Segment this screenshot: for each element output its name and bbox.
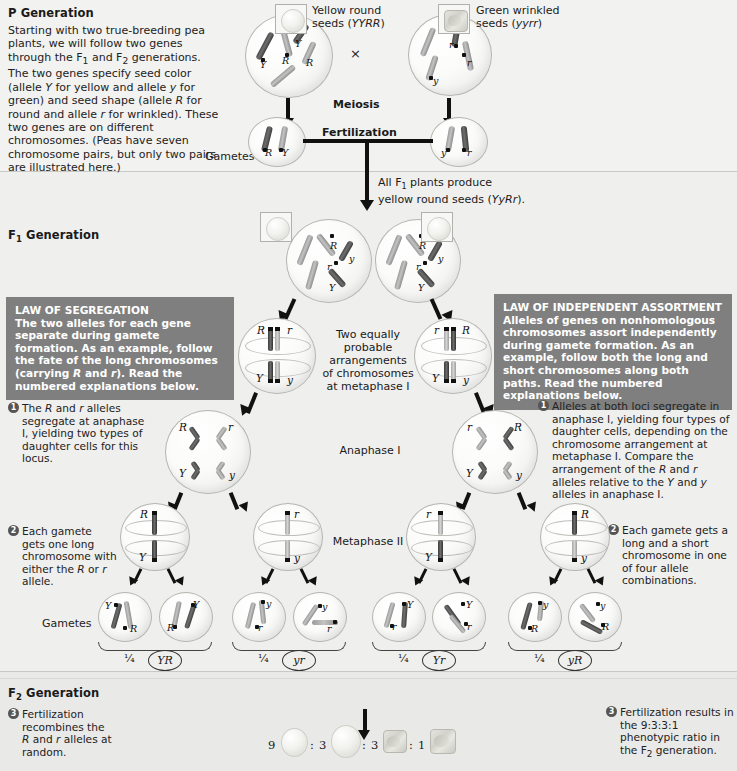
allele-label: R xyxy=(462,324,470,336)
allele-label: y xyxy=(516,469,522,481)
centromere xyxy=(451,379,456,383)
chromatid-arm xyxy=(475,437,487,451)
chromatid-arm xyxy=(188,437,200,451)
seed-icon-box-f1-right xyxy=(421,212,453,242)
allele-label: R xyxy=(257,324,265,336)
allele-label: r xyxy=(426,508,431,520)
gamete-brace-3 xyxy=(372,642,486,651)
gamete-cell-8: y R xyxy=(568,592,622,642)
centromere xyxy=(451,327,456,331)
allele-label: y xyxy=(600,600,605,611)
callout-text: Fertilization recombines the R and r all… xyxy=(22,708,112,758)
allele-label: Y xyxy=(432,372,439,384)
callout-text: Each gamete gets one long chromosome wit… xyxy=(22,525,118,588)
parent-right-label: Green wrinkledseeds (yyrr) xyxy=(476,4,596,30)
ratio-count-1: 9 xyxy=(268,738,275,752)
allele-label: y xyxy=(287,374,293,386)
callout-right-2: 2 Each gamete gets a long and a short ch… xyxy=(608,524,730,587)
metaphase2-cell-4: R y xyxy=(540,503,610,571)
meiosis-arrow-left xyxy=(286,98,290,120)
fertilization-line-down xyxy=(365,139,369,175)
chromosome-rod xyxy=(270,64,297,88)
allele-label: r xyxy=(467,621,472,632)
allele-label: r xyxy=(392,621,397,632)
centromere xyxy=(275,379,280,383)
fertilization-line-left xyxy=(303,139,369,143)
chromatid-arm xyxy=(477,469,487,481)
allele-label: r xyxy=(467,147,472,158)
law-of-independent-assortment-body: Alleles of genes on nonhomologous chromo… xyxy=(503,314,723,402)
wrinkled-seed-icon-yellow xyxy=(383,730,407,753)
gamete-fraction-1: ¹⁄₄ xyxy=(124,652,135,665)
metaphase2-cell-3: r Y xyxy=(406,503,476,571)
gamete-cell-left-p: R Y xyxy=(248,117,306,167)
callout-number: 1 xyxy=(538,400,549,411)
centromere xyxy=(454,44,458,48)
seed-icon-box-yellow-round xyxy=(275,4,307,34)
callout-left-2: 2 Each gamete gets one long chromosome w… xyxy=(8,525,118,588)
allele-label: Y xyxy=(193,599,199,610)
seed-icon-box-green-wrinkled xyxy=(438,4,470,34)
allele-label: r xyxy=(228,421,233,433)
allele-label: Y xyxy=(282,147,288,158)
callout-number: 3 xyxy=(8,708,19,719)
ratio-count-3: 3 xyxy=(371,738,378,752)
callout-text: The R and r alleles segregate at anaphas… xyxy=(22,402,154,465)
chromatid-arm xyxy=(502,469,512,481)
allele-label: Y xyxy=(105,600,111,611)
fertilization-label: Fertilization xyxy=(322,126,397,139)
gamete-cell-5: r Y xyxy=(372,592,426,642)
chromatid-arm xyxy=(190,469,200,481)
gamete-cell-4: y r xyxy=(293,592,347,642)
divider-f1-f2 xyxy=(0,671,737,672)
callout-f2-left: 3 Fertilization recombines the R and r a… xyxy=(8,708,112,758)
f1-generation-heading: F1 Generation xyxy=(8,228,99,244)
fertilization-arrow-stem xyxy=(365,175,369,203)
gamete-brace-4 xyxy=(508,642,622,651)
allele-label: r xyxy=(287,324,292,336)
centromere xyxy=(152,511,157,515)
centromere xyxy=(334,261,338,265)
round-seed-icon-green xyxy=(331,725,361,758)
p-generation-heading-text: P Generation xyxy=(8,6,94,20)
centromere xyxy=(538,601,542,605)
centromere xyxy=(268,327,273,331)
centromere xyxy=(275,327,280,331)
allele-label: y xyxy=(581,552,587,564)
fertilization-line-right xyxy=(367,139,433,143)
centromere xyxy=(444,379,449,383)
centromere xyxy=(268,379,273,383)
allele-label: R xyxy=(581,508,589,520)
centromere xyxy=(114,603,118,607)
metaphase2-label: Metaphase II xyxy=(322,535,414,548)
allele-label: R xyxy=(602,621,609,632)
gamete-cell-right-p: y r xyxy=(430,117,488,167)
allele-label: r xyxy=(467,421,472,433)
centromere xyxy=(152,558,157,562)
allele-label: Y xyxy=(295,38,301,49)
allele-label: r xyxy=(467,57,472,68)
chromosome-rod xyxy=(385,234,403,266)
ratio-count-4: 1 xyxy=(418,738,425,752)
allele-label: y xyxy=(322,601,327,612)
anaphase1-cell-left: R r Y y xyxy=(165,410,251,494)
chromatid-arm xyxy=(215,437,227,451)
f2-generation-heading: F2 Generation xyxy=(8,686,99,702)
round-seed-icon xyxy=(427,217,451,241)
metaphase2-cell-2: r y xyxy=(253,503,323,571)
round-seed-icon xyxy=(266,217,290,241)
ratio-separator-2: : xyxy=(362,738,366,752)
chromosome-rod xyxy=(305,260,319,290)
chromatid-arm xyxy=(215,469,225,481)
allele-label: r xyxy=(258,622,263,633)
allele-label: R xyxy=(282,55,289,66)
metaphase1-note: Two equallyprobablearrangementsof chromo… xyxy=(310,328,426,393)
callout-f2-right: 3 Fertilization results in the 9:3:3:1 p… xyxy=(606,706,734,760)
allele-label: Y xyxy=(260,59,266,70)
centromere xyxy=(261,600,265,604)
allele-label: y xyxy=(229,469,235,481)
centromere xyxy=(333,620,337,624)
gamete-genotype-3: Yr xyxy=(422,650,456,671)
law-of-segregation-title: LAW OF SEGREGATION xyxy=(15,304,225,317)
callout-text: Each gamete gets a long and a short chro… xyxy=(622,524,730,587)
